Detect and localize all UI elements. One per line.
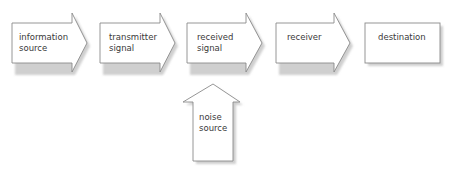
node-label-line: signal: [197, 43, 233, 54]
node-label-line: noise: [199, 112, 227, 123]
box-destination: [365, 23, 440, 63]
node-destination: destination: [378, 32, 426, 43]
node-label-line: destination: [378, 32, 426, 43]
node-label-line: source: [19, 43, 68, 54]
node-label-line: source: [199, 123, 227, 134]
node-received-signal: received signal: [197, 32, 233, 54]
node-label-line: receiver: [287, 32, 322, 43]
diagram-canvas: [0, 0, 455, 169]
node-label-line: information: [19, 32, 68, 43]
node-label-line: transmitter: [109, 32, 157, 43]
node-label-line: signal: [109, 43, 157, 54]
node-label-line: received: [197, 32, 233, 43]
node-information-source: information source: [19, 32, 68, 54]
node-noise-source: noise source: [199, 112, 227, 134]
node-receiver: receiver: [287, 32, 322, 43]
node-transmitter-signal: transmitter signal: [109, 32, 157, 54]
